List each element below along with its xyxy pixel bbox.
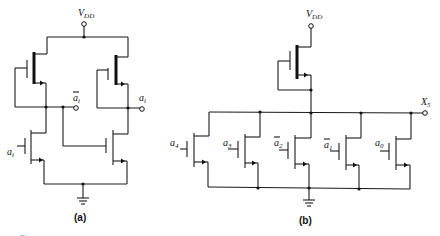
svg-text:a0: a0 — [375, 137, 384, 150]
output-terminal — [140, 107, 145, 112]
figure-caption-fragment: Figure — [20, 233, 43, 236]
svg-text:a3: a3 — [223, 137, 232, 150]
panel-a: VDD — [7, 7, 146, 223]
caption-a: (a) — [74, 212, 86, 223]
load-transistor-left — [15, 37, 47, 107]
ground-icon-b — [303, 200, 315, 206]
vdd-label-b: VDD — [306, 8, 322, 21]
panel-b: VDD X5 — [170, 8, 431, 226]
svg-text:a2: a2 — [274, 137, 283, 150]
driver-transistor-left: ai — [7, 107, 46, 184]
output-label-b: X5 — [420, 96, 431, 109]
pulldown-transistor-a2-bar: a2 — [274, 113, 311, 188]
driver-transistor-right — [106, 108, 128, 184]
load-transistor-b — [278, 45, 313, 113]
pulldown-transistor-a4: a4 — [170, 112, 209, 187]
pulldown-transistor-a0: a0 — [375, 113, 411, 189]
input-label: ai — [7, 146, 14, 159]
output-terminal-b — [423, 111, 428, 116]
caption-b: (b) — [299, 215, 312, 226]
circuit-diagram: VDD — [0, 0, 440, 236]
svg-text:a4: a4 — [170, 137, 179, 150]
ground-icon-a — [77, 198, 89, 204]
svg-text:a1: a1 — [324, 139, 333, 152]
vdd-terminal-b — [309, 24, 314, 29]
pulldown-transistor-a3: a3 — [223, 112, 260, 188]
vdd-label-a: VDD — [78, 7, 94, 20]
output-bar-terminal — [74, 106, 79, 111]
output-bar-label: ai — [73, 92, 80, 105]
vdd-terminal-a — [82, 22, 87, 27]
pulldown-transistor-a1-bar: a1 — [324, 113, 361, 189]
output-label: ai — [139, 92, 146, 105]
load-transistor-right — [97, 37, 128, 108]
